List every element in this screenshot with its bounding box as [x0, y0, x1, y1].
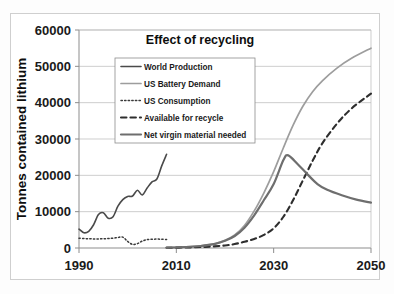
figure-root: 0100002000030000400005000060000199020102…	[0, 0, 394, 294]
legend-label: World Production	[144, 63, 213, 72]
y-tick-label-50000: 50000	[35, 59, 71, 74]
x-tick-label-2050: 2050	[357, 258, 386, 273]
series-line-us-consumption	[79, 237, 167, 245]
recycling-line-chart: 0100002000030000400005000060000199020102…	[0, 0, 394, 294]
y-tick-label-60000: 60000	[35, 23, 71, 38]
legend-label: US Consumption	[144, 97, 210, 106]
legend-label: US Battery Demand	[144, 80, 220, 89]
legend-label: Net virgin material needed	[144, 131, 246, 140]
y-tick-label-20000: 20000	[35, 168, 71, 183]
series-line-world-production	[79, 154, 167, 233]
series-line-net-virgin-material-needed	[167, 155, 371, 248]
y-axis-title: Tonnes contained lithium	[14, 58, 29, 221]
x-tick-label-2010: 2010	[162, 258, 191, 273]
x-tick-label-1990: 1990	[65, 258, 94, 273]
y-tick-label-30000: 30000	[35, 132, 71, 147]
x-tick-label-2030: 2030	[259, 258, 288, 273]
chart-title: Effect of recycling	[146, 33, 254, 47]
y-tick-label-40000: 40000	[35, 95, 71, 110]
y-tick-label-10000: 10000	[35, 204, 71, 219]
legend-label: Available for recycle	[144, 114, 224, 123]
y-tick-label-0: 0	[64, 241, 71, 256]
